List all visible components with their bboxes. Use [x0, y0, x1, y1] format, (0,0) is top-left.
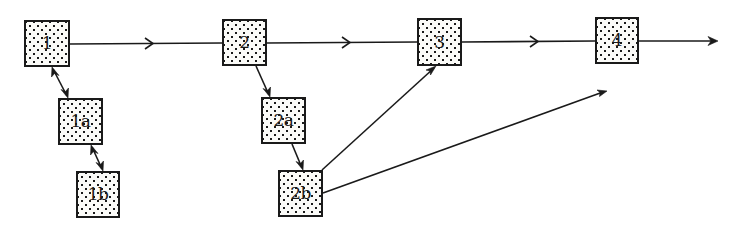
arrowhead-icon [61, 88, 69, 98]
node-label: 2a [274, 112, 294, 129]
node-1b: 1b [76, 171, 120, 218]
node-label: 1a [71, 113, 91, 130]
edge-3-to-4 [462, 41, 595, 42]
node-label: 3 [434, 34, 444, 51]
node-4: 4 [595, 17, 639, 64]
node-label: 2b [290, 185, 311, 202]
edge-2b-3 [322, 68, 434, 170]
edge-1-to-2 [70, 43, 222, 44]
node-label: 2 [239, 34, 249, 51]
node-3: 3 [417, 18, 462, 66]
node-1a: 1a [58, 98, 103, 145]
node-label: 1b [88, 186, 109, 203]
edge-2b-out [323, 92, 603, 193]
node-2b: 2b [278, 170, 323, 217]
node-2a: 2a [261, 97, 306, 144]
node-1: 1 [24, 20, 70, 67]
node-label: 1 [42, 35, 52, 52]
arrowhead-icon [52, 67, 60, 77]
node-2: 2 [222, 19, 267, 66]
flow-diagram: 1 1a 1b 2 2a 2b 3 4 [0, 0, 733, 235]
edge-2-to-3 [267, 42, 417, 43]
node-label: 4 [612, 32, 622, 49]
